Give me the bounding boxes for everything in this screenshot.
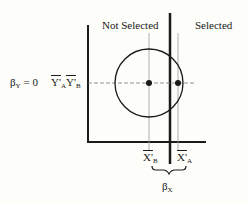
label-selected: Selected bbox=[195, 20, 232, 31]
mean-point-a bbox=[175, 80, 181, 86]
x-mean-b-label: X'B bbox=[143, 152, 158, 165]
mean-point-b bbox=[146, 80, 152, 86]
label-not-selected: Not Selected bbox=[102, 20, 159, 31]
y-means-label: Y'AY'B bbox=[51, 77, 81, 90]
beta-x-label: βX bbox=[162, 181, 173, 194]
x-mean-a-label: X'A bbox=[177, 152, 192, 165]
brace-icon bbox=[152, 166, 186, 174]
beta-y-label: βY = 0 bbox=[10, 77, 38, 90]
